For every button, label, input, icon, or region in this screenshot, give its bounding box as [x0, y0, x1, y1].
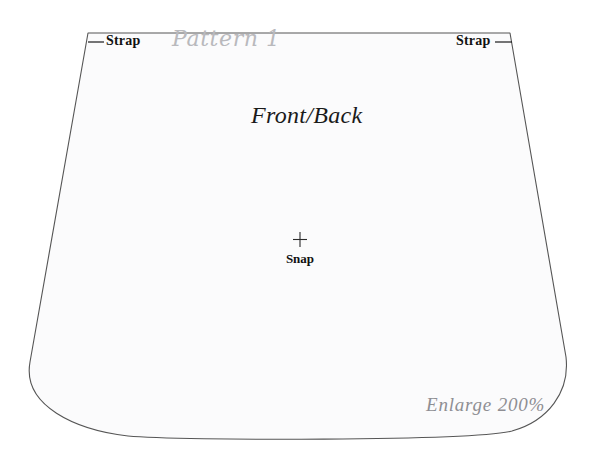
piece-title: Front/Back [251, 103, 362, 127]
pattern-sheet: Strap Strap Pattern 1 Front/Back Snap En… [0, 0, 594, 460]
snap-label: Snap [268, 251, 332, 267]
pattern-name-script: Pattern 1 [172, 28, 281, 50]
crosshair-plus-icon [268, 228, 332, 250]
strap-left-label: Strap [106, 34, 140, 48]
strap-right-label: Strap [456, 34, 490, 48]
snap-marker-group: Snap [268, 228, 332, 276]
enlarge-note: Enlarge 200% [426, 395, 545, 414]
